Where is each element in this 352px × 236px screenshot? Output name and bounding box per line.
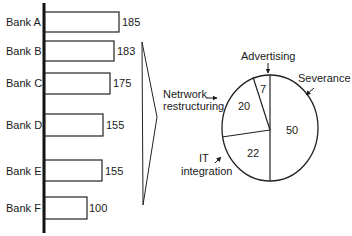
arrow-icon [306, 88, 314, 95]
bar-label: Bank E [6, 165, 41, 177]
bar-chart: Bank A 185 Bank B 183 Bank C 175 Bank D … [6, 3, 140, 233]
bar-rect [45, 197, 87, 219]
bar-bank-f: Bank F 100 [6, 197, 107, 219]
bar-label: Bank F [6, 202, 41, 214]
bar-label: Bank D [6, 119, 42, 131]
bar-bank-e: Bank E 155 [6, 160, 123, 181]
pie-chart: 50 22 20 7 Advertising Severance Netrwor… [163, 50, 351, 181]
slice-value-advertising: 7 [260, 83, 266, 95]
bar-rect [45, 160, 102, 181]
explode-bracket [142, 42, 157, 205]
callout-advertising: Advertising [241, 50, 295, 62]
bar-bank-b: Bank B 183 [6, 41, 135, 61]
callout-severance: Severance [298, 72, 351, 84]
slice-value-severance: 50 [286, 124, 298, 136]
bar-value: 183 [117, 45, 135, 57]
bar-label: Bank B [6, 45, 41, 57]
bar-label: Bank C [6, 77, 42, 89]
bar-label: Bank A [6, 16, 42, 28]
slice-value-network-restructuring: 20 [238, 100, 250, 112]
bar-value: 185 [122, 16, 140, 28]
bar-value: 100 [89, 202, 107, 214]
slice-value-it-integration: 22 [247, 147, 259, 159]
callout-network-line1: Netrwork [163, 88, 208, 100]
chart-canvas: Bank A 185 Bank B 183 Bank C 175 Bank D … [0, 0, 352, 236]
callout-it-line2: integration [181, 165, 232, 177]
bar-rect [45, 114, 103, 136]
callout-it-line1: IT [199, 152, 209, 164]
bar-rect [45, 12, 119, 32]
bar-rect [45, 41, 114, 61]
bar-value: 155 [105, 165, 123, 177]
bar-value: 155 [106, 119, 124, 131]
arrow-icon [215, 157, 221, 163]
bar-bank-a: Bank A 185 [6, 12, 140, 32]
callout-network-line2: restructuring [163, 100, 224, 112]
bar-value: 175 [113, 77, 131, 89]
bar-bank-d: Bank D 155 [6, 114, 124, 136]
bar-rect [45, 73, 110, 94]
bar-bank-c: Bank C 175 [6, 73, 131, 94]
